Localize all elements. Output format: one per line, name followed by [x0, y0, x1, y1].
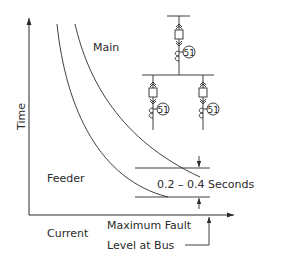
- feeder-1-relay-code: 51: [158, 105, 169, 115]
- main-relay-code: 51: [184, 48, 195, 58]
- y-axis-label: Time: [15, 103, 28, 131]
- interval-label: 0.2 – 0.4 Seconds: [157, 178, 254, 191]
- fault-level-label-line1: Maximum Fault: [107, 219, 192, 232]
- feeder-2-relay-code: 51: [208, 105, 219, 115]
- x-axis-label: Current: [47, 227, 89, 240]
- coordination-diagram: Time Current Main Feeder 0.2 – 0.4 Secon…: [0, 0, 283, 260]
- fault-level-label-line2: Level at Bus: [107, 239, 175, 252]
- feeder-curve-label: Feeder: [47, 172, 85, 185]
- main-curve-label: Main: [93, 41, 119, 54]
